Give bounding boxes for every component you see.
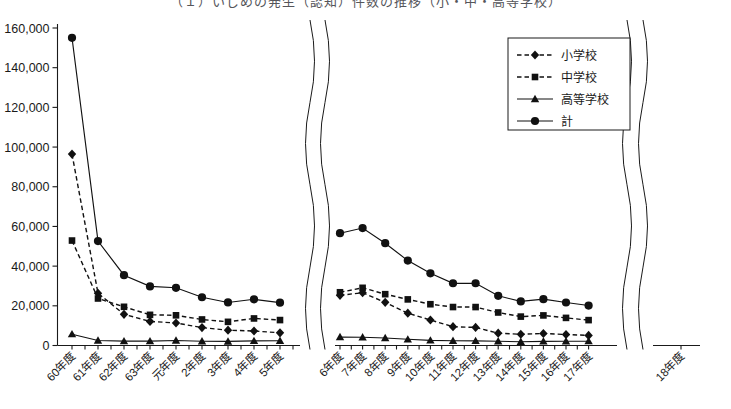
legend-label-triangle: 高等学校 [561,92,609,107]
data-point-square [359,285,366,292]
y-tick-label: 0 [43,339,50,353]
data-point-circle [585,301,593,309]
y-tick-label: 40,000 [11,260,49,274]
data-point-circle [531,117,539,125]
data-point-square [382,291,389,298]
data-point-square [69,237,76,244]
data-point-diamond [250,326,258,335]
data-point-square [173,312,180,319]
data-point-circle [517,297,525,305]
series-line-diamond [72,154,280,333]
data-point-circle [381,239,389,247]
data-point-circle [359,224,367,232]
data-point-circle [94,237,102,245]
series-line-triangle [340,337,589,342]
data-point-square [199,316,206,323]
series-line-circle [340,228,589,306]
x-tick-label: 5年度 [256,349,286,379]
line-chart-svg: 020,00040,00060,00080,000100,000120,0001… [0,0,731,409]
y-tick-label: 160,000 [4,22,49,36]
data-point-circle [539,295,547,303]
data-point-diamond [471,323,479,332]
data-point-square [337,289,344,296]
data-point-circle [494,292,502,300]
data-point-circle [562,298,570,306]
data-point-circle [336,229,344,237]
data-point-circle [172,284,180,292]
series-line-circle [72,38,280,303]
data-point-diamond [494,329,502,338]
y-tick-label: 140,000 [4,61,49,75]
series-line-diamond [340,293,589,336]
y-tick-label: 100,000 [4,141,49,155]
y-tick-label: 120,000 [4,101,49,115]
data-point-square [585,317,592,324]
data-point-circle [276,299,284,307]
data-point-circle [250,295,258,303]
data-point-diamond [146,317,154,326]
data-point-circle [224,298,232,306]
y-tick-label: 60,000 [11,220,49,234]
legend-label-diamond: 小学校 [561,48,597,63]
data-point-diamond [172,318,180,327]
x-tick-label: 8年度 [361,349,391,379]
legend-label-circle: 計 [561,114,573,129]
data-point-square [251,315,258,322]
data-point-square [121,304,128,311]
data-point-square [405,296,412,303]
data-point-square [147,312,154,319]
x-tick-label: 63年度 [122,349,157,384]
data-point-diamond [68,149,76,158]
data-point-diamond [381,298,389,307]
x-tick-label: 元年度 [149,349,182,382]
data-point-circle [426,269,434,277]
legend-label-square: 中学校 [561,70,597,85]
data-point-circle [472,279,480,287]
data-point-square [540,312,547,319]
data-point-triangle [68,330,76,337]
data-point-diamond [404,309,412,318]
series-line-square [72,241,280,322]
y-tick-label: 80,000 [11,180,49,194]
data-point-circle [120,271,128,279]
series-line-square [340,288,589,320]
x-tick-label: 18年度 [653,349,688,384]
data-point-diamond [198,323,206,332]
x-tick-label: 7年度 [339,349,369,379]
x-tick-label: 6年度 [316,349,346,379]
data-point-circle [198,293,206,301]
data-point-diamond [517,330,525,339]
data-point-diamond [449,322,457,331]
data-point-square [277,317,284,324]
data-point-circle [68,34,76,42]
data-point-square [563,315,570,322]
x-tick-label: 3年度 [204,349,234,379]
chart-container: （１）いじめの発生（認知）件数の推移（小・中・高等学校） 020,00040,0… [0,0,731,409]
data-point-square [472,304,479,311]
data-point-diamond [539,329,547,338]
data-point-circle [449,279,457,287]
y-tick-label: 20,000 [11,299,49,313]
data-point-square [225,319,232,326]
x-tick-label: 2年度 [178,349,208,379]
data-point-diamond [120,310,128,319]
data-point-square [450,304,457,311]
data-point-square [495,309,502,316]
data-point-circle [404,256,412,264]
x-tick-label: 4年度 [230,349,260,379]
data-point-diamond [224,326,232,335]
data-point-square [532,74,539,81]
data-point-diamond [426,315,434,324]
data-point-circle [146,282,154,290]
data-point-square [95,295,102,302]
data-point-diamond [276,328,284,337]
data-point-square [427,301,434,308]
clipped-figure-title: （１）いじめの発生（認知）件数の推移（小・中・高等学校） [0,0,731,10]
data-point-square [518,313,525,320]
